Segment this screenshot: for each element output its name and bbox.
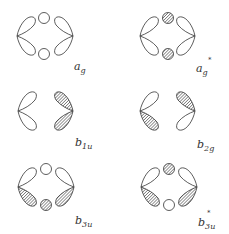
- orbital-ag-star: ag *: [140, 13, 212, 78]
- lobe-right-up: [177, 17, 195, 36]
- circle-top-hatched: [163, 13, 174, 24]
- lobe-left-down-hatched: [141, 187, 159, 206]
- label-b1u: b1u: [75, 136, 92, 151]
- circle-bottom-hatched: [163, 49, 174, 60]
- lobe-right-down: [177, 36, 195, 55]
- lobe-left-down: [17, 36, 35, 55]
- lobe-left-down: [140, 36, 158, 55]
- label-ag: ag: [74, 60, 86, 75]
- lobe-right-down-hatched: [55, 111, 73, 130]
- lobe-right-up: [179, 168, 197, 187]
- circle-top: [41, 164, 52, 175]
- lobe-right-down-hatched: [56, 187, 74, 206]
- circle-top: [39, 13, 50, 24]
- label-ag-star: ag: [196, 62, 208, 77]
- lobe-left-up: [141, 168, 159, 187]
- orbital-b3u-star: b3u *: [141, 164, 215, 232]
- orbital-diagram: ag ag * b1u b2g b3u: [0, 0, 229, 234]
- orbital-b3u: b3u: [18, 164, 92, 230]
- lobe-right-down: [177, 111, 195, 130]
- lobe-right-up: [55, 17, 73, 36]
- lobe-left-up: [18, 92, 36, 111]
- lobe-right-down: [55, 36, 73, 55]
- label-b3u-star: b3u: [198, 216, 215, 231]
- label-b3u-star-asterisk: *: [207, 209, 211, 217]
- label-b2g: b2g: [197, 138, 214, 153]
- lobe-left-up: [140, 17, 158, 36]
- circle-bottom: [164, 200, 175, 211]
- lobe-left-down-hatched: [140, 111, 158, 130]
- label-b3u: b3u: [75, 214, 92, 229]
- lobe-left-down: [18, 111, 36, 130]
- lobe-left-up: [17, 17, 35, 36]
- circle-bottom-hatched: [41, 200, 52, 211]
- lobe-left-down-hatched: [18, 187, 36, 206]
- circle-top-hatched: [164, 164, 175, 175]
- orbital-b1u: b1u: [18, 92, 92, 151]
- circle-bottom: [39, 49, 50, 60]
- lobe-left-up: [18, 168, 36, 187]
- lobe-right-down-hatched: [179, 187, 197, 206]
- lobe-right-up-hatched: [55, 92, 73, 111]
- orbital-ag: ag: [17, 13, 86, 76]
- lobe-left-up: [140, 92, 158, 111]
- lobe-right-up-hatched: [177, 92, 195, 111]
- orbital-b2g: b2g: [140, 92, 214, 153]
- label-ag-star-asterisk: *: [208, 56, 212, 64]
- lobe-right-up: [56, 168, 74, 187]
